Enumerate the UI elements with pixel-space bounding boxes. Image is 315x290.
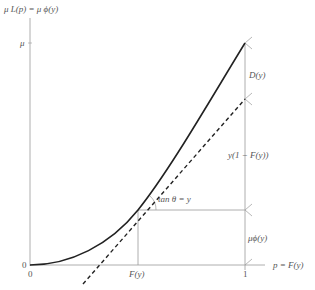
- y-axis-title: μ L(p) = μ ϕ(y): [4, 5, 58, 14]
- x-tick-one: 1: [243, 270, 248, 279]
- lorenz-curve: [30, 43, 245, 265]
- diagram-canvas: [0, 0, 315, 290]
- brace-label-middle: y(1 − F(y)): [228, 151, 269, 160]
- brace-label-dy: D(y): [249, 71, 266, 80]
- angle-label: tan θ = y: [158, 195, 191, 204]
- x-tick-zero: 0: [28, 270, 33, 279]
- x-axis-title: p = F(y): [273, 261, 304, 270]
- y-tick-mu: μ: [20, 39, 25, 48]
- y-tick-zero: 0: [22, 261, 27, 270]
- brace-label-muphi: μϕ(y): [248, 234, 267, 243]
- tangent-line: [83, 99, 245, 284]
- x-tick-fy: F(y): [129, 270, 145, 279]
